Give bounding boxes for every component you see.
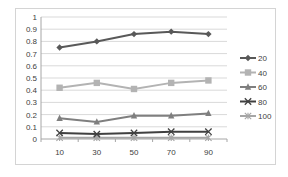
diamond-marker-icon bbox=[245, 55, 251, 61]
y-tick-label: 0.2 bbox=[26, 111, 38, 120]
x-tick-label: 50 bbox=[130, 148, 139, 157]
x-tick-label: 10 bbox=[55, 148, 64, 157]
y-tick-label: 0.7 bbox=[26, 50, 38, 59]
x-tick-label: 90 bbox=[204, 148, 213, 157]
y-tick-label: 0.8 bbox=[26, 37, 38, 46]
x-tick-label: 70 bbox=[167, 148, 176, 157]
legend-item-20: 20 bbox=[240, 54, 267, 63]
y-tick-label: 0.1 bbox=[26, 123, 38, 132]
legend-item-80: 80 bbox=[240, 98, 267, 107]
series-60 bbox=[56, 110, 211, 125]
square-marker-icon bbox=[245, 69, 251, 75]
y-tick-label: 0.4 bbox=[26, 86, 38, 95]
x-axis: 1030507090 bbox=[41, 139, 227, 157]
legend-label: 60 bbox=[258, 83, 267, 92]
diamond-marker-icon bbox=[205, 31, 211, 37]
legend-item-40: 40 bbox=[240, 69, 267, 78]
square-marker-icon bbox=[94, 80, 100, 86]
legend: 20406080100 bbox=[240, 54, 272, 121]
legend-item-100: 100 bbox=[240, 112, 272, 121]
square-marker-icon bbox=[56, 85, 62, 91]
y-tick-label: 0.6 bbox=[26, 62, 38, 71]
y-tick-label: 0.5 bbox=[26, 74, 38, 83]
y-tick-label: 0.3 bbox=[26, 98, 38, 107]
y-axis: 00.10.20.30.40.50.60.70.80.91 bbox=[26, 13, 41, 144]
legend-label: 80 bbox=[258, 98, 267, 107]
legend-label: 20 bbox=[258, 54, 267, 63]
legend-label: 40 bbox=[258, 69, 267, 78]
diamond-marker-icon bbox=[56, 44, 62, 50]
y-tick-label: 1 bbox=[33, 13, 38, 22]
square-marker-icon bbox=[205, 77, 211, 83]
square-marker-icon bbox=[168, 80, 174, 86]
legend-item-60: 60 bbox=[240, 83, 267, 92]
legend-label: 100 bbox=[258, 112, 272, 121]
y-tick-label: 0 bbox=[33, 135, 38, 144]
series-100 bbox=[56, 135, 211, 141]
series-lines bbox=[56, 28, 211, 141]
diamond-marker-icon bbox=[131, 31, 137, 37]
square-marker-icon bbox=[131, 86, 137, 92]
series-20 bbox=[56, 28, 211, 50]
x-tick-label: 30 bbox=[92, 148, 101, 157]
y-tick-label: 0.9 bbox=[26, 25, 38, 34]
line-chart: 00.10.20.30.40.50.60.70.80.91 1030507090… bbox=[0, 0, 288, 177]
diamond-marker-icon bbox=[94, 38, 100, 44]
